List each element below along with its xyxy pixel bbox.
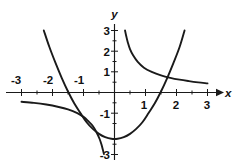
y-tick-label-3: 3 xyxy=(104,25,110,37)
x-tick-label--3: -3 xyxy=(11,74,21,86)
cartesian-plot: -3 -2 -1 1 2 3 3 2 1 -1 -3 x y xyxy=(0,0,233,167)
x-tick-label-2: 2 xyxy=(173,99,179,111)
y-tick-label--3: -3 xyxy=(100,149,110,161)
y-tick-label-1: 1 xyxy=(104,66,111,78)
x-tick-label-3: 3 xyxy=(204,99,210,111)
x-tick-label-1: 1 xyxy=(141,99,148,111)
hyperbola-right-branch-path xyxy=(125,30,207,83)
graph-figure: -3 -2 -1 1 2 3 3 2 1 -1 -3 x y xyxy=(0,0,233,167)
y-tick-label--1: -1 xyxy=(100,108,111,120)
x-axis-label: x xyxy=(224,87,232,99)
x-tick-label--2: -2 xyxy=(43,74,53,86)
y-tick-label-2: 2 xyxy=(104,46,110,58)
x-axis-arrow-icon xyxy=(216,89,224,96)
y-axis-label: y xyxy=(110,8,118,20)
x-tick-label--1: -1 xyxy=(74,74,85,86)
